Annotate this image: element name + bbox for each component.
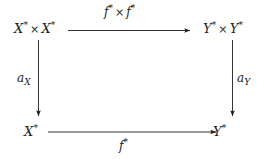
product-operator-icon: × <box>216 23 229 36</box>
node-top-right: Y*×Y* <box>203 22 243 35</box>
node-top-right-superscript2: * <box>239 20 244 30</box>
arrow-label-bottom-superscript: * <box>123 137 128 147</box>
arrow-label-left-subscript: X <box>24 77 30 87</box>
node-top-right-base2: Y <box>230 21 239 36</box>
arrow-label-top: f*×f* <box>104 6 135 18</box>
commutative-diagram: X*×X* Y*×Y* X* Y* f*×f* f* aX aY <box>0 0 266 159</box>
product-operator-icon: × <box>28 23 41 36</box>
node-bottom-left-superscript: * <box>33 123 38 133</box>
arrow-label-left: aX <box>17 72 31 84</box>
arrow-label-top-superscript2: * <box>131 3 136 13</box>
node-bottom-right-base: Y <box>213 124 222 139</box>
node-top-left: X*×X* <box>14 22 55 35</box>
arrow-label-right: aY <box>237 72 250 84</box>
arrow-label-bottom: f* <box>119 140 128 152</box>
node-bottom-left: X* <box>24 125 38 138</box>
product-operator-icon: × <box>113 6 126 19</box>
node-bottom-right-superscript: * <box>222 123 227 133</box>
arrow-label-right-subscript: Y <box>244 77 250 87</box>
node-top-left-superscript2: * <box>51 20 56 30</box>
node-bottom-right: Y* <box>213 125 226 138</box>
node-top-right-base: Y <box>203 21 212 36</box>
node-top-left-base2: X <box>41 21 50 36</box>
